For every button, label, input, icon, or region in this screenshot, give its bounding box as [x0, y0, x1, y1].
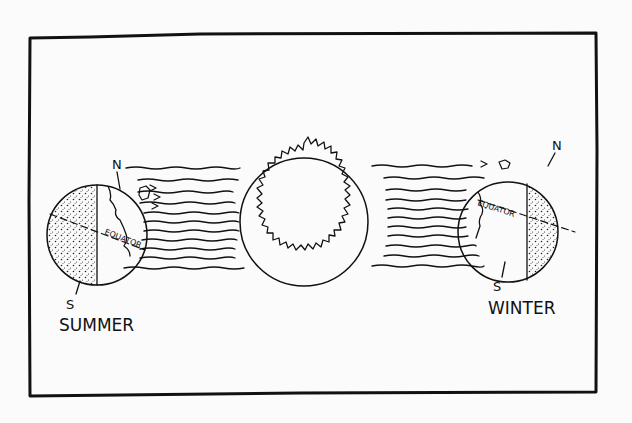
south-label-right: S	[493, 279, 501, 294]
diagram-canvas: EQUATOR N S SUMMER EQUATOR N S WINTER	[0, 0, 632, 423]
south-pole-axis-right	[502, 262, 505, 277]
ray-arrows-left	[150, 185, 160, 209]
season-label-summer: SUMMER	[59, 315, 134, 335]
north-america-left	[139, 186, 150, 200]
north-pole-axis-right	[548, 153, 555, 166]
equator-label-left: EQUATOR	[103, 227, 143, 249]
sun	[240, 137, 368, 286]
sun-corona	[257, 137, 350, 250]
north-pole-axis-left	[117, 172, 120, 189]
south-label-left: S	[66, 297, 74, 312]
night-side-left	[47, 185, 97, 285]
north-label-right: N	[552, 138, 562, 153]
sun-disc	[240, 158, 368, 286]
season-label-winter: WINTER	[488, 298, 556, 318]
north-america-right	[499, 160, 510, 169]
continent-left	[108, 186, 130, 256]
light-rays-left	[124, 167, 244, 269]
ray-arrow-right	[481, 161, 487, 167]
south-pole-axis-left	[76, 281, 80, 294]
earth-summer: EQUATOR N S SUMMER	[47, 157, 150, 335]
north-label-left: N	[112, 157, 122, 172]
earth-winter: EQUATOR N S WINTER	[458, 138, 575, 318]
equator-label-right: EQUATOR	[476, 198, 516, 219]
light-rays-right	[372, 165, 484, 267]
